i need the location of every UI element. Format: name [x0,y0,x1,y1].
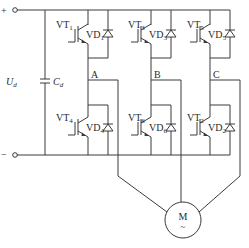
dc-voltage-label: Ud [6,76,17,89]
motor-ac-symbol: ~ [181,222,186,232]
leg-c [190,10,240,212]
capacitor-icon [40,10,50,155]
diode-label-vd6: VD6 [149,122,167,135]
leg-a [68,10,167,212]
phase-label-a: A [91,69,99,80]
transistor-label-vt2: VT2 [187,112,204,125]
phase-label-b: B [154,69,161,80]
diode-icon [103,124,113,131]
negative-terminal-icon [13,153,18,158]
phase-label-c: C [213,69,220,80]
positive-terminal-label: + [1,5,7,16]
motor-label: M [179,211,188,222]
transistor-label-vt6: VT6 [128,112,145,125]
diode-label-vd1: VD1 [86,29,104,42]
diode-label-vd4: VD4 [86,122,104,135]
transistor-label-vt3: VT3 [128,19,145,32]
diode-icon [166,30,176,37]
negative-terminal-label: − [1,149,7,160]
inverter-circuit-diagram: + − Ud Cd [0,0,249,248]
transistor-label-vt1: VT1 [56,19,73,32]
transistor-label-vt5: VT5 [187,19,204,32]
positive-terminal-icon [13,8,18,13]
diode-label-vd5: VD5 [208,29,226,42]
diode-icon [225,124,235,131]
transistor-label-vt4: VT4 [56,112,73,125]
diode-label-vd2: VD2 [208,122,226,135]
diode-icon [103,30,113,37]
diode-icon [225,30,235,37]
diode-label-vd3: VD3 [149,29,167,42]
diode-icon [166,124,176,131]
capacitor-label: Cd [53,76,64,89]
